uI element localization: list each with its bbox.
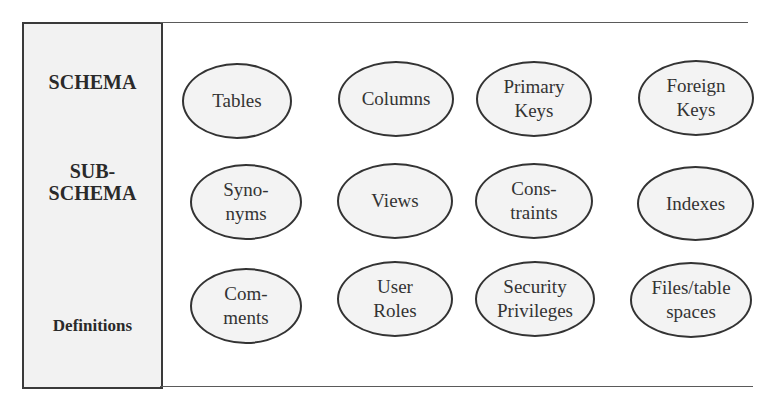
node-comments: Com- ments (190, 268, 302, 344)
row-label-definitions: Definitions (24, 315, 161, 337)
node-label: Files/table spaces (651, 276, 730, 324)
node-files-tablespaces: Files/table spaces (630, 262, 752, 338)
node-synonyms: Syno- nyms (190, 164, 302, 240)
node-label: Primary Keys (503, 75, 564, 123)
node-primary-keys: Primary Keys (476, 61, 592, 137)
node-indexes: Indexes (637, 166, 754, 241)
row-label-schema: SCHEMA (24, 71, 161, 93)
node-label: Security Privileges (497, 275, 573, 323)
node-security-privileges: Security Privileges (475, 261, 595, 337)
node-label: Foreign Keys (666, 74, 725, 122)
bottom-border-line (160, 386, 753, 387)
node-label: Syno- nyms (223, 178, 268, 226)
node-label: Cons- traints (510, 177, 558, 225)
node-views: Views (337, 163, 453, 239)
node-tables: Tables (182, 63, 292, 139)
node-constraints: Cons- traints (475, 163, 593, 239)
node-label: Com- ments (223, 282, 268, 330)
node-foreign-keys: Foreign Keys (638, 60, 754, 136)
node-label: Views (371, 189, 418, 213)
row-label-sub-schema: SUB- SCHEMA (24, 160, 161, 204)
node-label: Tables (212, 89, 261, 113)
top-border-line (160, 22, 748, 23)
node-columns: Columns (338, 61, 454, 137)
node-label: Columns (362, 87, 431, 111)
node-user-roles: User Roles (337, 261, 453, 337)
node-label: User Roles (373, 275, 416, 323)
node-label: Indexes (666, 192, 725, 216)
